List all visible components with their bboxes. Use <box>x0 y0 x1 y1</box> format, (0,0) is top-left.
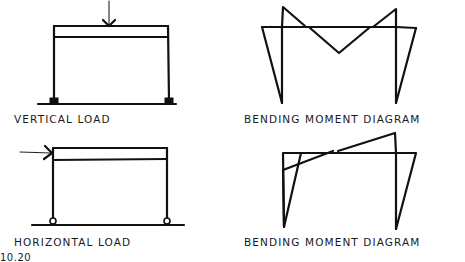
right-column <box>168 26 169 101</box>
vertical-load-bmd-panel: BENDING MOMENT DIAGRAM <box>232 0 465 131</box>
horizontal-load-bmd-caption: BENDING MOMENT DIAGRAM <box>244 236 420 248</box>
frame-outline <box>282 27 396 103</box>
vertical-load-bmd-caption: BENDING MOMENT DIAGRAM <box>244 113 420 125</box>
horizontal-load-arrow-icon <box>20 146 52 159</box>
midspan-moment <box>310 28 369 53</box>
beam <box>54 26 168 37</box>
figure-number: 10.20 <box>0 253 31 262</box>
left-column-moment <box>262 27 282 103</box>
bending-moment-diagram-vertical-drawing <box>232 0 465 131</box>
right-column-moment <box>396 28 416 103</box>
left-column-moment <box>283 153 301 227</box>
horizontal-load-panel: HORIZONTAL LOAD <box>0 131 232 262</box>
vertical-load-panel: VERTICAL LOAD <box>0 0 232 131</box>
right-joint-moment <box>373 9 396 27</box>
left-joint-moment <box>282 7 305 27</box>
right-column-moment <box>396 153 416 229</box>
portal-frame-vertical-load-drawing <box>0 0 232 131</box>
beam-moment <box>283 133 396 170</box>
horizontal-load-bmd-panel: BENDING MOMENT DIAGRAM <box>232 131 465 262</box>
beam <box>53 148 167 160</box>
fixed-support-right-icon <box>165 98 173 104</box>
vertical-load-arrow-icon <box>103 1 115 26</box>
horizontal-load-caption: HORIZONTAL LOAD <box>14 236 131 248</box>
vertical-load-caption: VERTICAL LOAD <box>14 113 111 125</box>
pinned-support-left-icon <box>50 218 56 224</box>
fixed-support-left-icon <box>50 98 58 104</box>
pinned-support-right-icon <box>164 218 170 224</box>
